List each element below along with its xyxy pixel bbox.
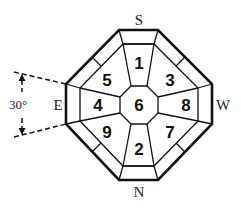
sector-8: 8 — [181, 96, 190, 115]
sector-4: 4 — [93, 96, 103, 115]
angle-label: 30° — [9, 97, 27, 112]
sector-5: 5 — [102, 71, 111, 90]
sector-6: 6 — [134, 96, 143, 115]
direction-north: N — [134, 184, 145, 200]
sector-1: 1 — [134, 54, 143, 73]
sector-9: 9 — [102, 123, 111, 142]
direction-south: S — [135, 12, 143, 28]
sector-2: 2 — [134, 140, 143, 159]
direction-east: E — [53, 97, 62, 113]
sector-7: 7 — [165, 123, 174, 142]
direction-west: W — [216, 97, 231, 113]
octagon-diagram: 30° S N E W 1 2 3 4 5 6 7 8 9 — [0, 0, 241, 209]
sector-3: 3 — [165, 71, 174, 90]
